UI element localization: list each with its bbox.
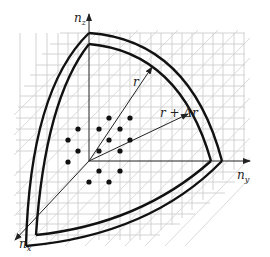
lattice-point	[106, 137, 111, 142]
lattice-point	[65, 137, 70, 142]
lattice-point	[117, 168, 122, 173]
lattice-point	[106, 179, 111, 184]
octant-shell-diagram: nz ny nx r r + Δr	[0, 0, 270, 257]
lattice-point	[106, 115, 111, 120]
lattice-point	[75, 148, 80, 153]
lattice-point	[117, 126, 122, 131]
lattice-point	[117, 148, 122, 153]
nz-label: nz	[74, 11, 87, 27]
lattice-point	[86, 179, 91, 184]
lattice-point	[96, 126, 101, 131]
lattice-point	[127, 115, 132, 120]
r-plus-dr-label: r + Δr	[160, 106, 199, 120]
nx-label: nx	[19, 237, 32, 253]
ny-label: ny	[237, 168, 250, 184]
lattice-point	[96, 168, 101, 173]
axes	[15, 14, 250, 240]
lattice-point	[96, 148, 101, 153]
lattice-point	[127, 137, 132, 142]
radius-r-plus-dr-arrow	[89, 114, 188, 161]
lattice-point	[65, 159, 70, 164]
lattice-point	[75, 126, 80, 131]
